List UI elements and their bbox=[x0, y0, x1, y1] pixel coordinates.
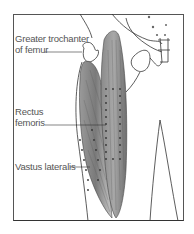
label-line: Vastus lateralis bbox=[15, 161, 76, 172]
label-line: femoris bbox=[15, 117, 45, 128]
label-greater-trochanter: Greater trochanter of femur bbox=[15, 33, 89, 55]
thigh-outline-inner2 bbox=[160, 120, 178, 221]
label-vastus-lateralis: Vastus lateralis bbox=[15, 161, 76, 172]
label-line: Rectus bbox=[15, 106, 45, 117]
label-rectus-femoris: Rectus femoris bbox=[15, 106, 45, 128]
label-line: of femur bbox=[15, 44, 89, 55]
thigh-outline-inner bbox=[150, 120, 160, 221]
label-line: Greater trochanter bbox=[15, 33, 89, 44]
pelvis-holes bbox=[148, 16, 167, 36]
